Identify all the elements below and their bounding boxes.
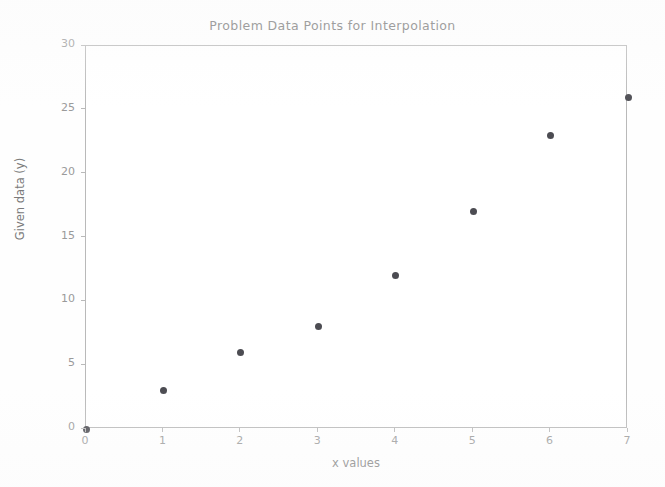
x-tick-label: 4: [375, 434, 415, 447]
x-tick-mark: [85, 428, 86, 432]
x-tick-label: 6: [530, 434, 570, 447]
y-axis-label: Given data (y): [13, 119, 27, 279]
y-tick-mark: [81, 236, 85, 237]
x-tick-mark: [472, 428, 473, 432]
y-tick-mark: [81, 172, 85, 173]
x-tick-label: 7: [607, 434, 647, 447]
chart-title: Problem Data Points for Interpolation: [0, 18, 665, 33]
x-tick-mark: [549, 428, 550, 432]
y-tick-mark: [81, 364, 85, 365]
data-point: [237, 349, 244, 356]
x-tick-label: 1: [142, 434, 182, 447]
data-point: [625, 94, 632, 101]
data-point: [392, 272, 399, 279]
y-tick-mark: [81, 108, 85, 109]
x-tick-mark: [317, 428, 318, 432]
y-tick-label: 30: [31, 37, 75, 50]
x-tick-mark: [239, 428, 240, 432]
y-tick-label: 5: [31, 356, 75, 369]
x-tick-label: 2: [220, 434, 260, 447]
x-tick-mark: [394, 428, 395, 432]
scatter-chart-figure: Problem Data Points for Interpolation 01…: [0, 0, 665, 487]
x-tick-label: 3: [297, 434, 337, 447]
y-tick-label: 0: [31, 420, 75, 433]
data-point: [160, 387, 167, 394]
y-tick-label: 15: [31, 229, 75, 242]
y-tick-label: 20: [31, 165, 75, 178]
y-tick-mark: [81, 428, 85, 429]
x-tick-label: 5: [452, 434, 492, 447]
x-tick-mark: [627, 428, 628, 432]
data-point: [470, 208, 477, 215]
x-tick-label: 0: [65, 434, 105, 447]
x-tick-mark: [162, 428, 163, 432]
plot-area: [85, 45, 627, 428]
y-tick-mark: [81, 300, 85, 301]
data-point: [315, 323, 322, 330]
data-point-layer: [86, 46, 626, 427]
y-tick-label: 25: [31, 101, 75, 114]
data-point: [547, 132, 554, 139]
y-tick-mark: [81, 45, 85, 46]
y-tick-label: 10: [31, 292, 75, 305]
x-axis-label: x values: [85, 456, 627, 470]
